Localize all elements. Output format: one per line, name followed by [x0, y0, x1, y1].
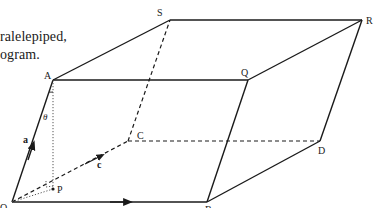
label-S: S — [157, 7, 163, 18]
label-theta: θ — [43, 112, 48, 122]
label-B: B — [205, 204, 212, 208]
label-P: P — [57, 184, 63, 195]
label-D: D — [318, 145, 325, 156]
label-O: O — [0, 202, 7, 208]
label-C: C — [137, 130, 144, 141]
label-vector-c: c — [97, 159, 102, 170]
edge-AS — [53, 20, 170, 80]
parallelepiped-figure: S R A Q C D O B P a c θ — [0, 0, 374, 208]
label-Q: Q — [241, 67, 249, 78]
label-vector-a: a — [23, 134, 28, 145]
hidden-edges — [12, 20, 320, 202]
label-A: A — [44, 70, 52, 81]
point-P — [51, 187, 54, 190]
edge-OA — [12, 80, 53, 202]
label-R: R — [366, 15, 373, 26]
